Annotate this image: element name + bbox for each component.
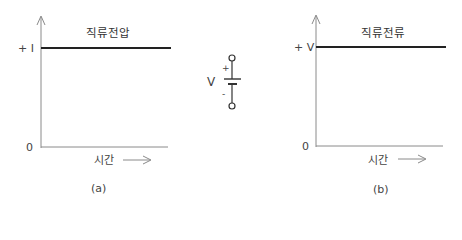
panel-a-title: 직류전압 bbox=[86, 28, 130, 40]
terminal-bottom bbox=[229, 103, 235, 109]
battery-voltage-label: V bbox=[207, 76, 215, 88]
panel-a-x-label: 시간 bbox=[94, 155, 114, 166]
panel-a-origin-label: 0 bbox=[26, 142, 33, 153]
panel-a-caption: (a) bbox=[91, 183, 106, 194]
panel-b-level-label: + V bbox=[294, 42, 314, 53]
battery-plus-label: + bbox=[222, 64, 230, 73]
panel-b-x-label: 시간 bbox=[368, 155, 388, 166]
panel-b-title: 직류전류 bbox=[361, 28, 405, 40]
panel-b-origin-label: 0 bbox=[302, 141, 309, 152]
panel-a-level-label: + I bbox=[18, 43, 34, 54]
terminal-top bbox=[229, 55, 235, 61]
battery-minus-label: - bbox=[222, 90, 225, 99]
panel-b-caption: (b) bbox=[373, 184, 389, 195]
